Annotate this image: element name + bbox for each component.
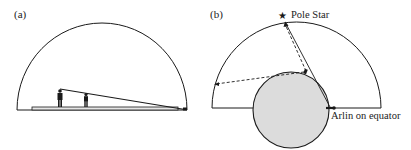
panel-b-label: (b) xyxy=(210,8,223,21)
star-icon: ★ xyxy=(278,10,287,21)
figure: (a) (b) ★ Pole Star Arl xyxy=(0,0,411,150)
observer-label: Arlin on equator xyxy=(331,110,401,121)
sky-dome-a xyxy=(17,23,187,110)
dashed-line-to-star xyxy=(285,24,306,71)
panel-b: (b) ★ Pole Star Arlin on equator xyxy=(210,8,401,148)
horizon-marker-a xyxy=(183,108,187,111)
person-short-icon xyxy=(84,93,88,107)
pole-star-label: Pole Star xyxy=(291,9,330,20)
person-tall-icon xyxy=(58,89,63,107)
panel-a: (a) xyxy=(14,8,187,111)
observer-marker-high xyxy=(303,69,308,75)
ground-platform xyxy=(32,107,178,110)
sight-line-a xyxy=(60,89,185,110)
panel-a-label: (a) xyxy=(14,8,27,21)
